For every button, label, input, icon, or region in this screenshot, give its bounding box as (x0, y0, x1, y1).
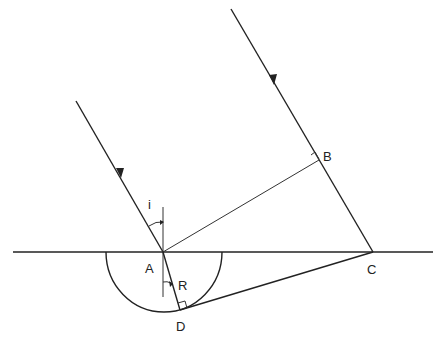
incident-ray-right (231, 9, 373, 252)
label-i: i (148, 197, 151, 212)
label-R: R (178, 278, 187, 293)
refracted-wavefront-DC (180, 252, 373, 310)
label-D: D (176, 319, 185, 334)
arrow-right-icon (269, 74, 277, 85)
label-C: C (367, 262, 376, 277)
incident-ray-left (76, 101, 163, 252)
wavefront-AB (163, 160, 319, 252)
label-A: A (145, 261, 154, 276)
refraction-diagram: i A R D B C (0, 0, 448, 343)
label-B: B (323, 149, 332, 164)
